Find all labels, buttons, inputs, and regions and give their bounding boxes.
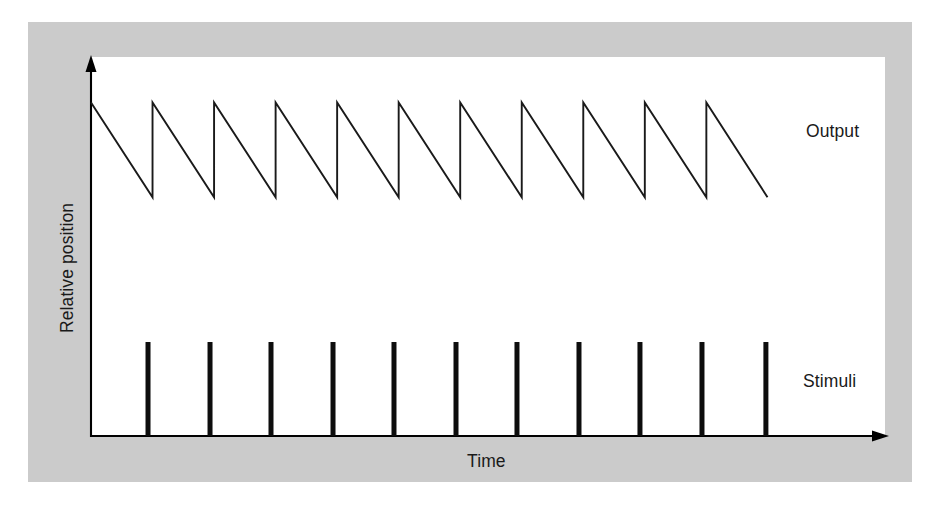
figure-grey-panel	[28, 22, 912, 482]
series-label-stimuli: Stimuli	[803, 371, 856, 392]
plot-canvas	[91, 57, 885, 437]
series-label-output: Output	[806, 121, 859, 142]
figure-root: Output Stimuli Time Relative position	[0, 0, 937, 530]
y-axis-label: Relative position	[57, 203, 78, 333]
x-axis-label: Time	[467, 451, 506, 472]
caption-sliver	[30, 519, 330, 530]
